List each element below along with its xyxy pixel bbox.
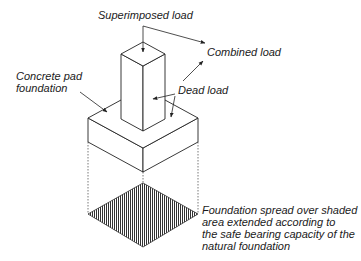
spread-area <box>88 183 198 247</box>
superimposed-load-label: Superimposed load <box>98 9 193 21</box>
spread-label-4: natural foundation <box>202 240 290 252</box>
concrete-pad-label-2: foundation <box>16 82 67 94</box>
combined-load-label: Combined load <box>207 46 281 58</box>
spread-label-2: area extended according to <box>202 216 335 228</box>
dead-load-label: Dead load <box>178 84 228 96</box>
column <box>121 42 165 131</box>
spread-label-1: Foundation spread over shaded <box>202 204 357 216</box>
concrete-pad-label-1: Concrete pad <box>16 70 82 82</box>
spread-label-3: the safe bearing capacity of the <box>202 228 355 240</box>
